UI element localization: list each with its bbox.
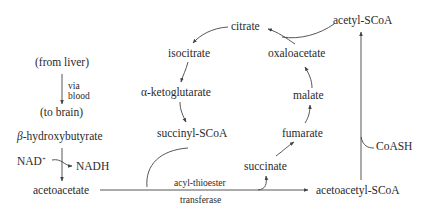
enzyme-label-line2: transferase (180, 195, 221, 206)
acetylscoa-curve (282, 24, 334, 38)
nad-charge: + (42, 155, 46, 163)
coash-label: CoASH (376, 140, 412, 153)
from-liver-label: (from liver) (35, 56, 89, 69)
succinyl-scoa-label: succinyl-SCoA (157, 127, 227, 140)
oxaloacetate-label: oxaloacetate (268, 47, 325, 60)
malate-to-oxaloacetate-arrow (305, 67, 312, 88)
succinate-label: succinate (244, 160, 287, 173)
alpha-ketoglutarate-label: α-ketoglutarate (141, 86, 211, 99)
isocitrate-label: isocitrate (168, 47, 210, 60)
acetoacetyl-scoa-label: acetoacetyl-SCoA (316, 184, 400, 197)
fumarate-to-malate-arrow (305, 105, 310, 123)
to-succinate-arrow (258, 176, 266, 190)
blood-label: blood (68, 91, 90, 102)
fumarate-label: fumarate (282, 127, 323, 140)
ketoglutarate-text: -ketoglutarate (147, 86, 211, 98)
beta-hydroxybutyrate-label: β-hydroxybutyrate (17, 130, 103, 143)
ketone-body-pathway-diagram: (from liver) via blood (to brain) β-hydr… (0, 0, 429, 214)
enzyme-label-line1: acyl-thioester (174, 178, 226, 189)
citrate-to-isocitrate-arrow (193, 27, 228, 43)
nadh-label: NADH (76, 160, 109, 173)
acetyl-scoa-label: acetyl-SCoA (333, 14, 392, 27)
malate-label: malate (293, 89, 324, 102)
nad-plus-label: NAD+ (17, 153, 46, 168)
nad-text: NAD (17, 155, 42, 167)
acetoacetate-label: acetoacetate (33, 184, 89, 197)
coash-curve (361, 137, 374, 148)
hydroxybutyrate-text: -hydroxybutyrate (23, 130, 103, 142)
to-brain-label: (to brain) (40, 106, 83, 119)
citrate-label: citrate (231, 20, 260, 33)
isocitrate-to-akg-arrow (181, 62, 188, 82)
akg-to-succinylscoa-arrow (180, 102, 186, 122)
succinate-to-fumarate-arrow (276, 142, 294, 156)
oxaloacetate-to-citrate-arrow (268, 29, 295, 44)
